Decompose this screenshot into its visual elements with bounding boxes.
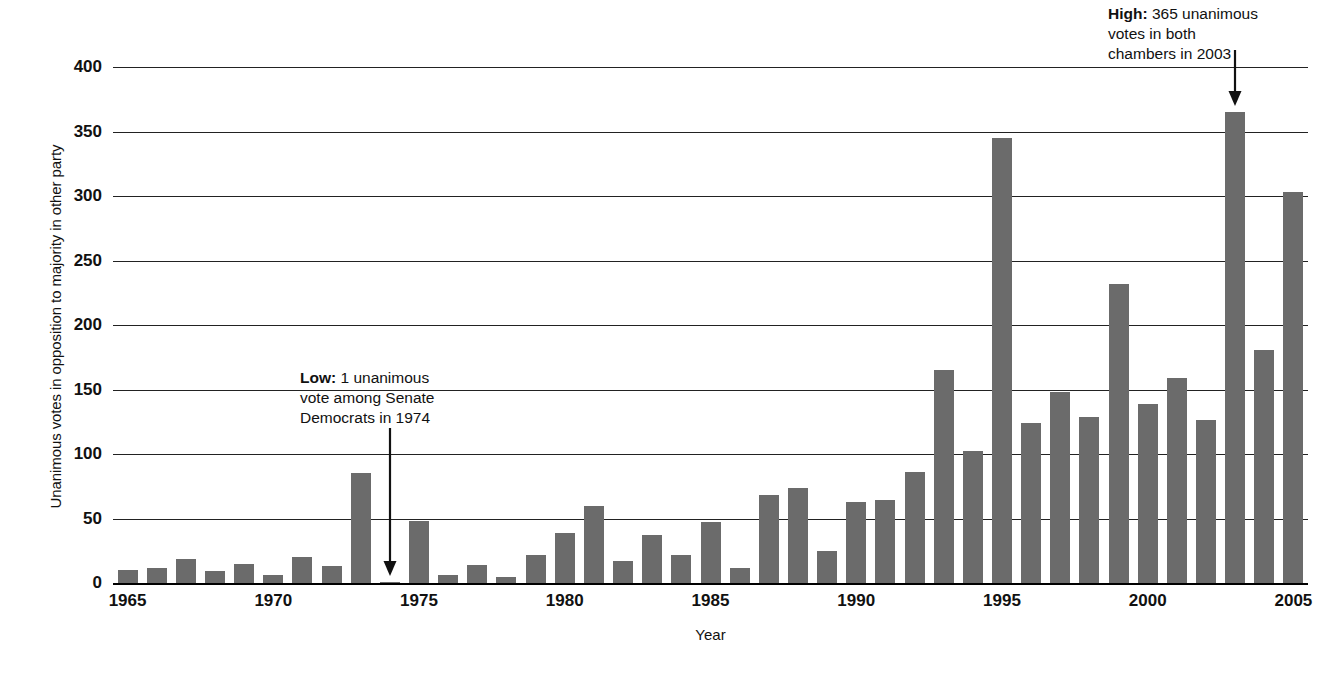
y-tick-label: 250 xyxy=(74,251,102,271)
bar xyxy=(205,571,225,583)
plot-area: 050100150200250300350400 196519701975198… xyxy=(113,67,1308,583)
bar xyxy=(934,370,954,583)
bar xyxy=(875,500,895,583)
annotation-high-rest: 365 unanimous xyxy=(1148,5,1258,22)
bar xyxy=(846,502,866,583)
annotation-low-line2: vote among Senate xyxy=(300,389,434,406)
y-tick-label: 50 xyxy=(83,509,102,529)
bar xyxy=(292,557,312,583)
x-tick-label: 1965 xyxy=(109,591,147,611)
bar xyxy=(1283,192,1303,583)
bar xyxy=(176,559,196,584)
bar xyxy=(1109,284,1129,583)
bar xyxy=(322,566,342,583)
x-tick-label: 2000 xyxy=(1129,591,1167,611)
annotation-low-rest: 1 unanimous xyxy=(336,369,429,386)
bars-group xyxy=(113,67,1308,583)
y-tick-label: 200 xyxy=(74,315,102,335)
bar xyxy=(467,565,487,583)
annotation-low-leader-arrow xyxy=(378,428,402,578)
y-tick-label: 0 xyxy=(93,573,102,593)
bar xyxy=(409,521,429,583)
x-axis-title: Year xyxy=(113,626,1308,643)
bar xyxy=(642,535,662,583)
bar xyxy=(234,564,254,583)
y-tick-label: 350 xyxy=(74,122,102,142)
bar xyxy=(526,555,546,583)
bar xyxy=(555,533,575,583)
x-tick-label: 1980 xyxy=(546,591,584,611)
y-tick-label: 150 xyxy=(74,380,102,400)
bar xyxy=(1138,404,1158,583)
x-tick-label: 2005 xyxy=(1275,591,1313,611)
bar xyxy=(817,551,837,583)
bar xyxy=(905,472,925,583)
bar xyxy=(584,506,604,583)
annotation-high-leader-arrow xyxy=(1223,50,1247,108)
bar xyxy=(438,575,458,583)
y-tick-label: 300 xyxy=(74,186,102,206)
bar xyxy=(788,488,808,583)
bar xyxy=(1254,350,1274,583)
bar xyxy=(671,555,691,583)
bar xyxy=(147,568,167,583)
bar xyxy=(1021,423,1041,583)
bar xyxy=(1167,378,1187,583)
annotation-high-line2: votes in both xyxy=(1108,25,1196,42)
bar xyxy=(1050,392,1070,583)
bar xyxy=(118,570,138,583)
x-axis-line xyxy=(113,583,1308,585)
annotation-low-bold: Low: xyxy=(300,369,336,386)
bar xyxy=(730,568,750,583)
x-tick-label: 1990 xyxy=(837,591,875,611)
annotation-low: Low: 1 unanimousvote among SenateDemocra… xyxy=(300,368,520,428)
annotation-high: High: 365 unanimousvotes in bothchambers… xyxy=(1108,4,1308,64)
bar xyxy=(351,473,371,583)
y-axis-title: Unanimous votes in opposition to majorit… xyxy=(47,67,64,587)
bar xyxy=(1079,417,1099,583)
bar xyxy=(992,138,1012,583)
y-tick-label: 400 xyxy=(74,57,102,77)
bar xyxy=(1225,112,1245,583)
bar xyxy=(1196,420,1216,583)
bar xyxy=(263,575,283,583)
bar xyxy=(380,582,400,584)
x-tick-label: 1995 xyxy=(983,591,1021,611)
bar xyxy=(613,561,633,583)
x-tick-label: 1970 xyxy=(254,591,292,611)
annotation-high-line3: chambers in 2003 xyxy=(1108,45,1231,62)
x-tick-label: 1985 xyxy=(692,591,730,611)
bar xyxy=(963,451,983,583)
chart-figure: Unanimous votes in opposition to majorit… xyxy=(0,0,1334,675)
x-tick-label: 1975 xyxy=(400,591,438,611)
annotation-low-line3: Democrats in 1974 xyxy=(300,409,430,426)
bar xyxy=(759,495,779,583)
bar xyxy=(701,522,721,583)
y-tick-label: 100 xyxy=(74,444,102,464)
bar xyxy=(496,577,516,583)
annotation-high-bold: High: xyxy=(1108,5,1148,22)
